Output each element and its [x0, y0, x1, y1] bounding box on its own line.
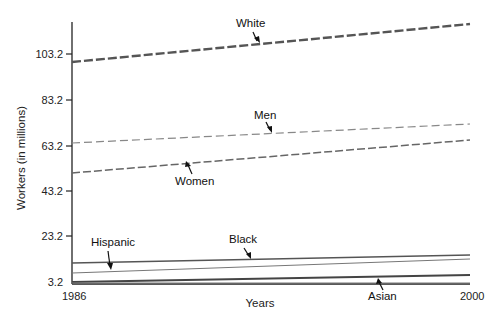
series-black-line [72, 255, 470, 263]
arrowhead-icon [267, 126, 272, 133]
series-asian-line [72, 275, 470, 282]
label-hispanic: Hispanic [91, 236, 135, 270]
label-men: Men [254, 109, 276, 133]
svg-text:Black: Black [229, 233, 257, 245]
arrowhead-icon [185, 161, 191, 167]
x-tick-1986: 1986 [62, 290, 86, 302]
series-white-line [72, 24, 470, 62]
svg-text:3.2: 3.2 [48, 276, 63, 288]
svg-text:Men: Men [254, 109, 276, 121]
svg-text:White: White [236, 17, 265, 29]
x-axis-title: Years [246, 297, 275, 309]
svg-text:Women: Women [175, 175, 214, 187]
series-women-line [72, 140, 470, 173]
y-ticks [66, 54, 72, 236]
label-asian: Asian [368, 278, 397, 302]
svg-text:Hispanic: Hispanic [91, 236, 135, 248]
y-axis-title: Workers (in millions) [15, 106, 27, 210]
svg-text:103.2: 103.2 [35, 48, 63, 60]
label-women: Women [175, 161, 214, 187]
svg-text:43.2: 43.2 [42, 185, 63, 197]
svg-text:Asian: Asian [368, 290, 397, 302]
svg-text:83.2: 83.2 [42, 94, 63, 106]
svg-text:63.2: 63.2 [42, 140, 63, 152]
arrowhead-icon [107, 263, 113, 270]
svg-text:23.2: 23.2 [42, 230, 63, 242]
series-hispanic-line [72, 259, 470, 273]
label-white: White [236, 17, 265, 43]
y-tick-labels: 103.2 83.2 63.2 43.2 23.2 3.2 [35, 48, 63, 288]
x-tick-2000: 2000 [460, 290, 484, 302]
label-black: Black [229, 233, 257, 259]
line-chart: 103.2 83.2 63.2 43.2 23.2 3.2 1986 2000 … [0, 0, 494, 323]
arrowhead-icon [376, 278, 382, 284]
